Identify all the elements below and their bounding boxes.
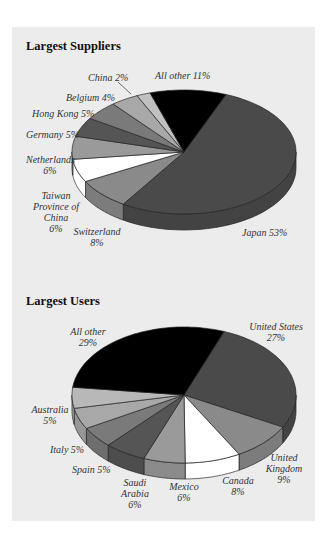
label-united-kingdom: United Kingdom 9% xyxy=(262,452,306,485)
label-users-all-other: All other 29% xyxy=(68,326,108,348)
label-canada: Canada 8% xyxy=(220,475,256,497)
suppliers-title: Largest Suppliers xyxy=(26,39,121,54)
label-mexico: Mexico 6% xyxy=(166,481,202,503)
label-japan: Japan 53% xyxy=(242,227,287,238)
china-leader-line xyxy=(118,82,131,94)
label-all-other: All other 11% xyxy=(155,70,210,81)
label-spain: Spain 5% xyxy=(72,464,111,475)
label-germany: Germany 5% xyxy=(26,129,79,140)
label-hong-kong: Hong Kong 5% xyxy=(32,108,94,119)
label-italy: Italy 5% xyxy=(50,444,84,455)
label-china: China 2% xyxy=(88,72,128,83)
users-title: Largest Users xyxy=(26,294,100,309)
label-netherlands: Netherlands 6% xyxy=(26,154,74,176)
label-switzerland: Switzerland 8% xyxy=(72,226,122,248)
label-united-states: United States 27% xyxy=(246,321,306,343)
label-australia: Australia 5% xyxy=(30,404,70,426)
label-belgium: Belgium 4% xyxy=(66,92,115,103)
label-saudi-arabia: Saudi Arabia 6% xyxy=(118,477,152,510)
